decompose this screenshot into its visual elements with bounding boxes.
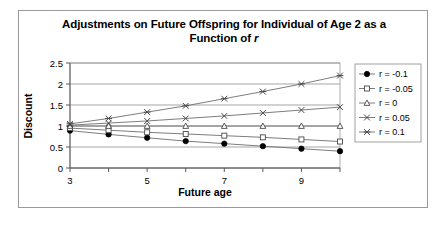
marker-open-square	[365, 86, 370, 91]
x-axis-title: Future age	[178, 186, 232, 198]
y-tick-label: 2	[58, 79, 63, 90]
gridlines	[70, 63, 340, 168]
plot-area-wrapper: 00.511.522.5 3579 Future age Discount r …	[0, 0, 446, 226]
chart-canvas: 00.511.522.5 3579 Future age Discount r …	[0, 0, 446, 226]
data-series-layer	[67, 73, 344, 154]
y-tick-label: 0.5	[50, 142, 63, 153]
marker-asterisk	[259, 89, 266, 95]
plot-border	[70, 63, 340, 168]
legend-label: r = -0.05	[379, 84, 413, 94]
y-tick-label: 2.5	[50, 58, 63, 69]
marker-filled-circle	[222, 141, 227, 146]
marker-filled-circle	[337, 149, 342, 154]
marker-asterisk	[105, 116, 112, 122]
y-tick-label: 1	[58, 121, 63, 132]
marker-asterisk	[144, 109, 151, 115]
marker-open-square	[299, 137, 304, 142]
y-tick-label: 1.5	[50, 100, 63, 111]
marker-open-square	[145, 130, 150, 135]
y-tick-labels: 00.511.522.5	[50, 58, 63, 174]
marker-filled-circle	[364, 71, 369, 76]
legend-label: r = -0.1	[379, 69, 408, 79]
chart-legend: r = -0.1r = -0.05r = 0r = 0.05r = 0.1	[355, 64, 421, 142]
marker-open-square	[338, 139, 343, 144]
marker-asterisk	[298, 81, 305, 87]
y-axis-title: Discount	[22, 93, 34, 138]
legend-label: r = 0.1	[379, 127, 405, 137]
x-tick-label: 9	[299, 175, 304, 186]
marker-filled-circle	[260, 143, 265, 148]
series-r-0-1	[67, 73, 344, 127]
marker-asterisk	[221, 96, 228, 102]
x-tick-labels: 3579	[67, 175, 304, 186]
marker-open-square	[183, 131, 188, 136]
marker-open-square	[260, 135, 265, 140]
legend-label: r = 0.05	[379, 113, 410, 123]
x-tick-label: 3	[67, 175, 72, 186]
marker-open-square	[222, 133, 227, 138]
x-tick-label: 5	[144, 175, 149, 186]
marker-filled-circle	[299, 146, 304, 151]
marker-asterisk	[182, 103, 189, 109]
marker-filled-circle	[183, 138, 188, 143]
legend-label: r = 0	[379, 98, 397, 108]
marker-filled-circle	[144, 135, 149, 140]
y-tick-label: 0	[58, 163, 63, 174]
x-tick-label: 7	[222, 175, 227, 186]
